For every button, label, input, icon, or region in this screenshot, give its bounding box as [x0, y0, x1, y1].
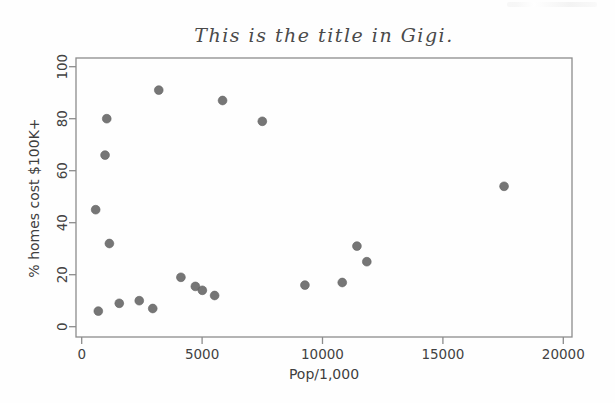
data-point	[353, 242, 362, 251]
y-tick-label: 100	[54, 54, 70, 80]
data-point	[102, 114, 111, 123]
data-point	[105, 239, 114, 248]
x-tick-label: 10000	[301, 346, 344, 362]
y-tick-label: 80	[54, 110, 70, 127]
y-tick-label: 40	[54, 214, 70, 231]
data-point	[210, 291, 219, 300]
scatter-plot-figure: This is the title in Gigi. 0500010000150…	[0, 0, 615, 403]
data-point	[338, 278, 347, 287]
data-point	[91, 205, 100, 214]
x-tick-label: 5000	[185, 346, 219, 362]
data-point	[301, 281, 310, 290]
data-point	[258, 117, 267, 126]
data-point	[154, 86, 163, 95]
scatter-plot-canvas: 05000100001500020000020406080100	[0, 0, 615, 403]
data-point	[135, 296, 144, 305]
x-tick-label: 0	[77, 346, 86, 362]
x-axis-label: Pop/1,000	[76, 366, 572, 382]
data-point	[362, 257, 371, 266]
data-point	[218, 96, 227, 105]
y-tick-label: 0	[54, 322, 70, 331]
data-point	[198, 286, 207, 295]
y-axis-label: % homes cost $100K+	[26, 88, 42, 308]
data-point	[148, 304, 157, 313]
data-point	[101, 151, 110, 160]
data-point	[500, 182, 509, 191]
data-point	[177, 273, 186, 282]
y-tick-label: 20	[54, 266, 70, 283]
y-tick-label: 60	[54, 162, 70, 179]
x-tick-label: 15000	[421, 346, 464, 362]
x-tick-label: 20000	[542, 346, 585, 362]
plot-box	[76, 58, 572, 337]
data-point	[94, 307, 103, 316]
data-point	[115, 299, 124, 308]
